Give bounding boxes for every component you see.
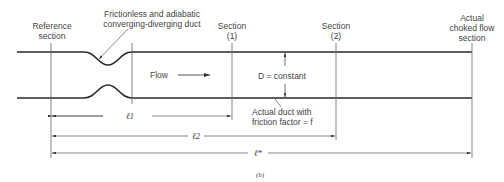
section2-label: Section (2) (316, 21, 356, 41)
choked-section-label: Actual choked flow section (440, 13, 504, 43)
lstar-label: ℓ* (238, 148, 278, 158)
bottom-wall (17, 85, 472, 98)
l2-label: ℓ2 (176, 131, 216, 141)
section1-label: Section (1) (212, 21, 252, 41)
nozzle-label: Frictionless and adiabatic converging-di… (90, 9, 214, 29)
reference-section-label: Reference section (20, 21, 84, 41)
diameter-label: D = constant (258, 71, 306, 81)
duct-leader (275, 99, 281, 107)
top-wall (17, 52, 472, 65)
figure-caption: (b) (250, 170, 270, 180)
l1-label: ℓ1 (110, 111, 150, 121)
duct-label: Actual duct with friction factor = f (252, 107, 313, 127)
flow-label: Flow (150, 70, 168, 80)
